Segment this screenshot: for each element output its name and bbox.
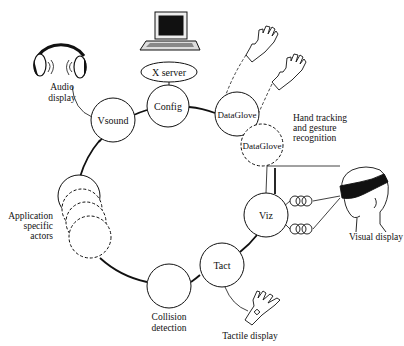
laptop-icon [140, 12, 200, 50]
vr-architecture-diagram: X server Audio display Hand tracking and… [0, 0, 404, 346]
node-tact-label: Tact [213, 260, 230, 271]
headphones-icon [33, 45, 86, 78]
application-actors-stack [58, 175, 111, 258]
head-mounted-display-icon [340, 167, 388, 232]
app-actors-label-3: actors [30, 231, 53, 241]
tactile-connector [225, 287, 248, 311]
app-actors-label-2: specific [23, 221, 53, 231]
node-collision-detection [147, 264, 191, 308]
tactile-glove-icon [245, 291, 280, 325]
xserver-label: X server [152, 67, 187, 78]
glove-icon [272, 54, 306, 90]
app-actors-label-1: Application [8, 211, 53, 221]
fiber-coil-icon [290, 196, 312, 206]
glove1-dashed-link [225, 55, 246, 97]
node-vsound-label: Vsound [97, 115, 128, 126]
node-viz: Viz [244, 193, 288, 237]
collision-label-1: Collision [152, 312, 187, 322]
glove-icon [246, 26, 278, 62]
visual-display-label: Visual display [349, 232, 403, 242]
tactile-display-label: Tactile display [222, 331, 278, 341]
node-vsound: Vsound [91, 98, 135, 142]
hand-tracking-label-2: and gesture [293, 123, 337, 133]
hand-tracking-label-3: recognition [293, 133, 337, 143]
hand-tracking-label-1: Hand tracking [293, 113, 347, 123]
audio-display-label-1: Audio [50, 82, 74, 92]
xserver-node: X server [141, 62, 197, 85]
collision-label-2: detection [152, 323, 187, 333]
node-dataglove-2-label: DataGlove [243, 141, 282, 151]
node-dataglove-1-label: DataGlove [218, 110, 257, 120]
fiber-coil-icon [290, 224, 312, 234]
audio-display-label-2: display [48, 93, 76, 103]
node-dataglove-2: DataGlove [241, 124, 283, 166]
node-config-label: Config [154, 101, 182, 112]
node-config: Config [147, 85, 189, 127]
node-tact: Tact [200, 243, 244, 287]
node-viz-label: Viz [259, 210, 273, 221]
